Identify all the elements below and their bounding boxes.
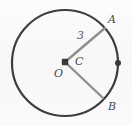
label-C: C [75,56,83,67]
segment-OB [65,62,103,98]
segment-OA [65,28,105,62]
label-measure-3: 3 [77,30,84,41]
label-O: O [54,68,63,79]
label-A: A [108,14,116,25]
label-B: B [108,101,116,112]
circle-point-right [115,60,121,66]
geometry-figure: A B C O 3 [0,0,132,126]
center-point-O [62,59,68,65]
